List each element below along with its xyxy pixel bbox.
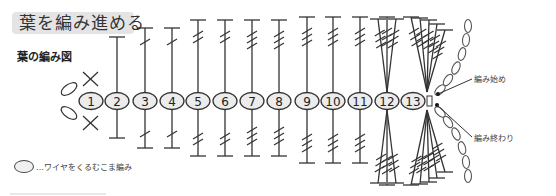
chain-stitch-icon bbox=[465, 20, 472, 33]
chain-stitch-icon bbox=[441, 73, 454, 88]
label-end: 編み終わり bbox=[474, 132, 514, 143]
stitch-number: 1 bbox=[87, 95, 95, 109]
stitch-number: 10 bbox=[325, 95, 340, 109]
chain-stitch-icon bbox=[462, 155, 470, 169]
chain-stitch-icon bbox=[59, 104, 79, 122]
stitch-number: 12 bbox=[379, 95, 394, 109]
chain-stitch-icon bbox=[450, 61, 462, 76]
chain-stitch-icon bbox=[59, 80, 79, 98]
label-start: 編み始め bbox=[474, 73, 506, 84]
stitch-number: 8 bbox=[275, 95, 283, 109]
stitch-number: 7 bbox=[248, 95, 256, 109]
legend: …ワイヤをくるむこま編み bbox=[14, 160, 132, 173]
stitch-number: 4 bbox=[168, 95, 176, 109]
stitch-number: 11 bbox=[352, 95, 367, 109]
chain-stitch-icon bbox=[457, 141, 467, 155]
chain-stitch-icon bbox=[457, 47, 467, 61]
stitch-number: 9 bbox=[303, 95, 311, 109]
stitch-number: 5 bbox=[194, 95, 202, 109]
legend-text: …ワイヤをくるむこま編み bbox=[36, 161, 132, 172]
stitch-number: 3 bbox=[141, 95, 149, 109]
stitch-number: 6 bbox=[221, 95, 229, 109]
stitch-number: 13 bbox=[405, 95, 420, 109]
chain-stitch-icon bbox=[441, 115, 454, 130]
slip-stitch-icon bbox=[427, 96, 432, 106]
next-section-strip bbox=[10, 193, 106, 195]
chain-stitch-icon bbox=[450, 127, 462, 142]
oval-stitch-icon bbox=[14, 160, 34, 173]
chain-stitch-icon bbox=[465, 170, 472, 183]
stitch-number: 2 bbox=[113, 95, 121, 109]
chain-stitch-icon bbox=[462, 33, 470, 47]
